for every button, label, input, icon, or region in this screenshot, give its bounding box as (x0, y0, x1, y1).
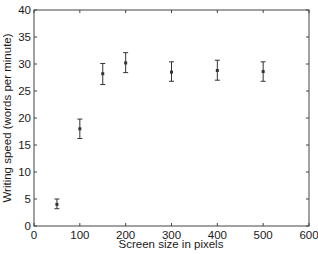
y-tick-label: 0 (25, 220, 31, 232)
marker (216, 69, 219, 72)
data-point (215, 60, 220, 80)
y-tick-label: 25 (18, 85, 31, 97)
data-point (123, 53, 128, 73)
x-tick-label: 100 (70, 229, 89, 241)
y-tick-label: 10 (18, 166, 31, 178)
y-tick-label: 15 (18, 139, 31, 151)
plot-frame (34, 10, 309, 226)
marker (78, 127, 81, 130)
x-axis: 0100200300400500600 (31, 10, 318, 241)
y-tick-label: 20 (18, 112, 31, 124)
data-point (54, 199, 59, 209)
marker (101, 72, 104, 75)
x-tick-label: 0 (31, 229, 37, 241)
marker (124, 61, 127, 64)
data-point (169, 62, 174, 81)
y-axis: 0510152025303540 (18, 4, 309, 232)
x-tick-label: 500 (254, 229, 273, 241)
data-point (77, 119, 82, 138)
data-point (261, 62, 266, 81)
marker (55, 203, 58, 206)
chart: 0100200300400500600 0510152025303540 Scr… (0, 0, 318, 254)
x-axis-label: Screen size in pixels (119, 238, 224, 250)
y-tick-label: 30 (18, 58, 31, 70)
marker (170, 71, 173, 74)
y-tick-label: 40 (18, 4, 31, 16)
y-tick-label: 35 (18, 31, 31, 43)
plot-area (34, 10, 309, 226)
y-axis-label: Writing speed (words per minute) (1, 33, 13, 202)
x-tick-label: 600 (299, 229, 318, 241)
data-point (100, 63, 105, 84)
marker (262, 70, 265, 73)
y-tick-label: 5 (25, 193, 31, 205)
data-series (54, 53, 265, 209)
